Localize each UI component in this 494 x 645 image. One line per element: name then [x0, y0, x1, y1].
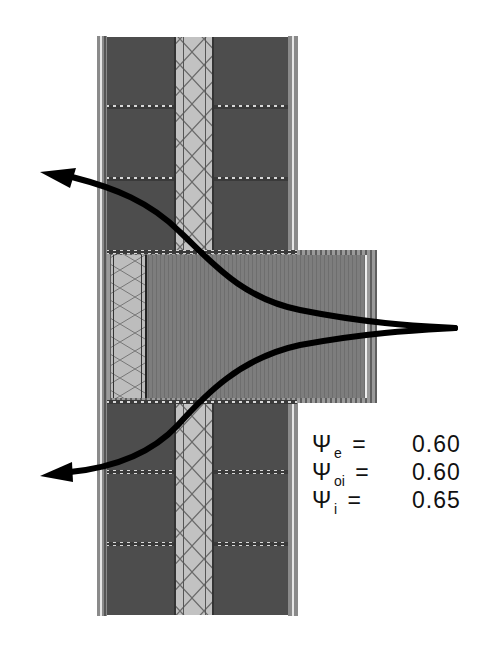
- legend-label: Ψe =: [312, 430, 412, 461]
- psi-subscript: e: [334, 445, 342, 461]
- psi-subscript: oi: [334, 473, 345, 489]
- psi-legend: Ψe = 0.60 Ψoi = 0.60 Ψi = 0.65: [312, 430, 461, 514]
- psi-value: 0.60: [412, 430, 461, 458]
- psi-symbol: Ψ: [312, 486, 334, 514]
- legend-row-psi-oi: Ψoi = 0.60: [312, 458, 461, 486]
- equals-sign: =: [355, 459, 368, 485]
- slab-projection: [107, 250, 377, 404]
- psi-subscript: i: [334, 501, 337, 517]
- legend-label: Ψi =: [312, 486, 412, 517]
- thermal-bridge-diagram: [0, 0, 494, 645]
- psi-value: 0.60: [412, 458, 461, 486]
- psi-value: 0.65: [412, 486, 461, 514]
- equals-sign: =: [352, 431, 365, 457]
- equals-sign: =: [348, 487, 361, 513]
- slab-edge-insulation: [111, 255, 147, 398]
- legend-label: Ψoi =: [312, 458, 412, 489]
- legend-row-psi-i: Ψi = 0.65: [312, 486, 461, 514]
- psi-symbol: Ψ: [312, 430, 334, 458]
- legend-row-psi-e: Ψe = 0.60: [312, 430, 461, 458]
- psi-symbol: Ψ: [312, 458, 334, 486]
